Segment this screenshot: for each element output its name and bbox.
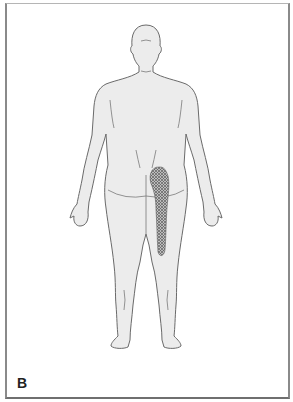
panel-label: B <box>17 375 27 391</box>
body-diagram <box>0 0 293 402</box>
